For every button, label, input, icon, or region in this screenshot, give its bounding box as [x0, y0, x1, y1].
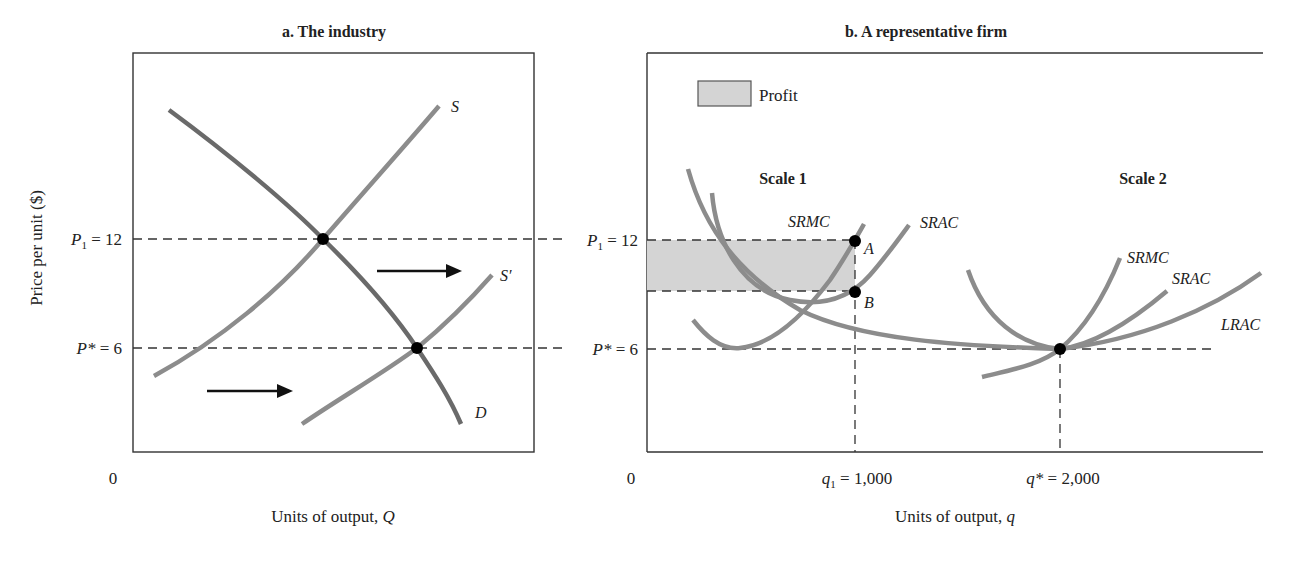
- equilibrium-point-1: [317, 233, 329, 245]
- scale2-label: Scale 2: [1119, 170, 1167, 187]
- panel-a: a. The industry P1 = 12 P* = 6: [70, 23, 563, 526]
- scale2-srmc-label: SRMC: [1127, 249, 1169, 266]
- supply-curve-s: [154, 106, 439, 376]
- label-s-prime: S′: [500, 267, 512, 284]
- point-b-label: B: [864, 294, 874, 311]
- panel-a-p1-label: P1 = 12: [70, 230, 122, 251]
- panel-b-x-label: Units of output, q: [895, 507, 1015, 526]
- panel-a-origin: 0: [109, 469, 118, 488]
- panel-a-title: a. The industry: [282, 23, 386, 41]
- scale1-label: Scale 1: [759, 170, 807, 187]
- shift-arrow-upper: [377, 264, 462, 278]
- q1-label: q1 = 1,000: [822, 469, 892, 490]
- scale2-equilibrium-point: [1054, 343, 1066, 355]
- panel-a-x-label: Units of output, Q: [271, 507, 395, 526]
- scale2-srmc-curve: [982, 258, 1120, 377]
- scale1-srmc-label: SRMC: [788, 213, 830, 230]
- label-s: S: [451, 98, 459, 115]
- lrac-label: LRAC: [1220, 316, 1260, 333]
- scale2-srac-label: SRAC: [1172, 270, 1211, 287]
- profit-legend-swatch: [698, 81, 751, 106]
- supply-curve-s-prime: [302, 275, 492, 424]
- panel-b-pstar-label: P* = 6: [592, 340, 638, 359]
- point-a-label: A: [863, 240, 874, 257]
- panel-a-pstar-label: P* = 6: [76, 339, 122, 358]
- demand-curve: [169, 110, 461, 424]
- scale2-srac-curve: [968, 270, 1167, 349]
- point-a: [849, 235, 861, 247]
- point-b: [849, 286, 861, 298]
- panel-b-title: b. A representative firm: [845, 23, 1008, 41]
- equilibrium-point-2: [411, 342, 423, 354]
- shift-arrow-lower: [207, 384, 293, 398]
- y-axis-label: Price per unit ($): [27, 190, 46, 306]
- panel-b-p1-label: P1 = 12: [586, 231, 638, 252]
- qstar-label: q* = 2,000: [1026, 469, 1099, 488]
- label-d: D: [474, 404, 487, 421]
- panel-b-origin: 0: [627, 469, 636, 488]
- panel-b: b. A representative firm Profit P1 = 12 …: [586, 23, 1263, 526]
- scale1-srac-label: SRAC: [920, 214, 959, 231]
- profit-legend-label: Profit: [759, 86, 798, 105]
